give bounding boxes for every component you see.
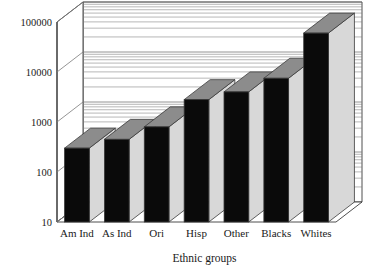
x-tick-label-0: Am Ind xyxy=(60,227,94,239)
bar-front-face xyxy=(224,92,249,222)
x-tick-label-5: Blacks xyxy=(261,227,291,239)
bar-front-face xyxy=(304,33,329,222)
x-tick-label-2: Ori xyxy=(149,227,164,239)
x-axis-title: Ethnic groups xyxy=(172,252,237,265)
y-tick-label-1: 10000 xyxy=(26,67,52,78)
bar-front-face xyxy=(264,78,289,222)
x-tick-label-1: As Ind xyxy=(102,227,132,239)
chart-canvas: 10000010000100010010Am IndAs IndOriHispO… xyxy=(0,0,381,277)
x-tick-label-3: Hisp xyxy=(186,227,207,239)
y-tick-label-4: 10 xyxy=(42,217,53,228)
y-tick-label-2: 1000 xyxy=(31,117,52,128)
bar-side-face xyxy=(328,13,354,222)
bar-whites[interactable] xyxy=(304,13,355,222)
x-tick-label-4: Other xyxy=(224,227,249,239)
bar-front-face xyxy=(184,100,209,222)
bar-front-face xyxy=(144,127,169,222)
bar-chart-3d: 10000010000100010010Am IndAs IndOriHispO… xyxy=(0,0,381,277)
bar-front-face xyxy=(104,139,129,222)
bar-front-face xyxy=(65,148,90,222)
x-tick-label-6: Whites xyxy=(300,227,331,239)
y-tick-label-0: 100000 xyxy=(21,17,53,28)
y-tick-label-3: 100 xyxy=(36,167,52,178)
